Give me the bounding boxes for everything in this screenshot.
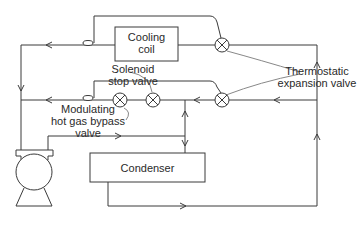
coil-sensing-bulb: [83, 41, 93, 46]
condenser-label: Condenser: [90, 162, 205, 174]
cooling-coil-text: Coolingcoil: [115, 31, 178, 55]
thermostatic-label: Thermostaticexpansion valve: [272, 65, 361, 89]
bypass-sensing-bulb: [83, 96, 93, 101]
tev-bottom-icon: [215, 93, 229, 107]
solenoid-label: Solenoidstop valve: [98, 63, 168, 87]
tev-top-icon: [215, 38, 229, 52]
solenoid-valve-icon: [146, 93, 160, 107]
bypass-label: Modulatinghot gas bypassvalve: [48, 103, 128, 139]
compressor-icon: [16, 150, 53, 206]
condenser-outlet-line: [108, 182, 317, 206]
